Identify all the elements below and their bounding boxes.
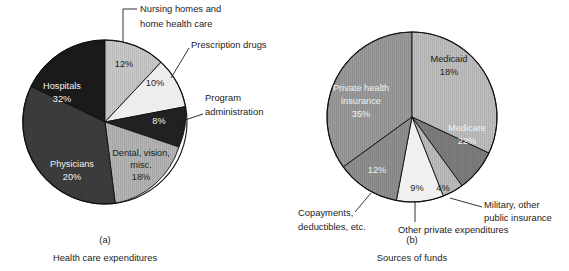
slice-label-dental-value: 18% [132, 172, 150, 182]
slice-label-medicaid-value: 18% [440, 67, 458, 77]
leader-line-prescription-drugs [171, 48, 189, 78]
callout-copayments-line1: Copayments, [298, 207, 353, 218]
slice-label-private-health-insurance-line2: insurance [341, 96, 381, 106]
callout-program-administration-line1: Program [205, 92, 241, 103]
pie-charts-svg: Hospitals 32% 12% 10% 8% Dental, vision,… [0, 0, 569, 271]
callout-prescription-drugs: Prescription drugs [191, 39, 267, 50]
slice-label-prescription-drugs-value: 10% [146, 78, 164, 88]
slice-label-copayments-value: 12% [368, 165, 386, 175]
slice-label-program-administration-value: 8% [152, 116, 165, 126]
pie-chart-health-care-expenditures: Hospitals 32% 12% 10% 8% Dental, vision,… [23, 3, 267, 263]
slice-label-medicaid-name: Medicaid [431, 54, 468, 64]
callout-nursing-homes-line1: Nursing homes and [140, 3, 221, 14]
pie-chart-sources-of-funds: Medicaid 18% Medicare 22% Private health… [298, 32, 552, 263]
panel-a-letter: (a) [99, 234, 110, 245]
callout-copayments-line2: deductibles, etc. [298, 221, 366, 232]
slice-label-medicare-name: Medicare [448, 123, 486, 133]
slice-label-physicians-name: Physicians [50, 159, 94, 169]
slice-label-military-value: 4% [436, 183, 449, 193]
callout-nursing-homes-line2: home health care [140, 18, 212, 29]
slice-label-medicare-value: 22% [458, 136, 476, 146]
callout-military-line1: Military, other [484, 199, 540, 210]
slice-label-hospitals-name: Hospitals [43, 81, 81, 91]
leader-line-copayments [355, 193, 371, 212]
two-pie-chart-figure: Hospitals 32% 12% 10% 8% Dental, vision,… [0, 0, 569, 271]
slice-label-nursing-homes-value: 12% [115, 59, 133, 69]
slice-label-dental-line2: misc. [130, 160, 151, 170]
leader-line-military [450, 198, 482, 207]
callout-program-administration-line2: administration [205, 106, 263, 117]
slice-label-dental-line1: Dental, vision, [112, 148, 170, 158]
panel-b-letter: (b) [406, 234, 417, 245]
panel-b-caption: Sources of funds [377, 252, 448, 263]
leader-line-nursing-homes [123, 9, 137, 42]
slice-label-other-private-value: 9% [410, 183, 423, 193]
panel-a-caption: Health care expenditures [53, 252, 158, 263]
slice-label-hospitals-value: 32% [53, 94, 71, 104]
slice-label-physicians-value: 20% [63, 172, 81, 182]
callout-military-line2: public insurance [484, 212, 552, 223]
slice-label-private-health-insurance-value: 35% [352, 109, 370, 119]
slice-label-private-health-insurance-line1: Private health [333, 83, 389, 93]
